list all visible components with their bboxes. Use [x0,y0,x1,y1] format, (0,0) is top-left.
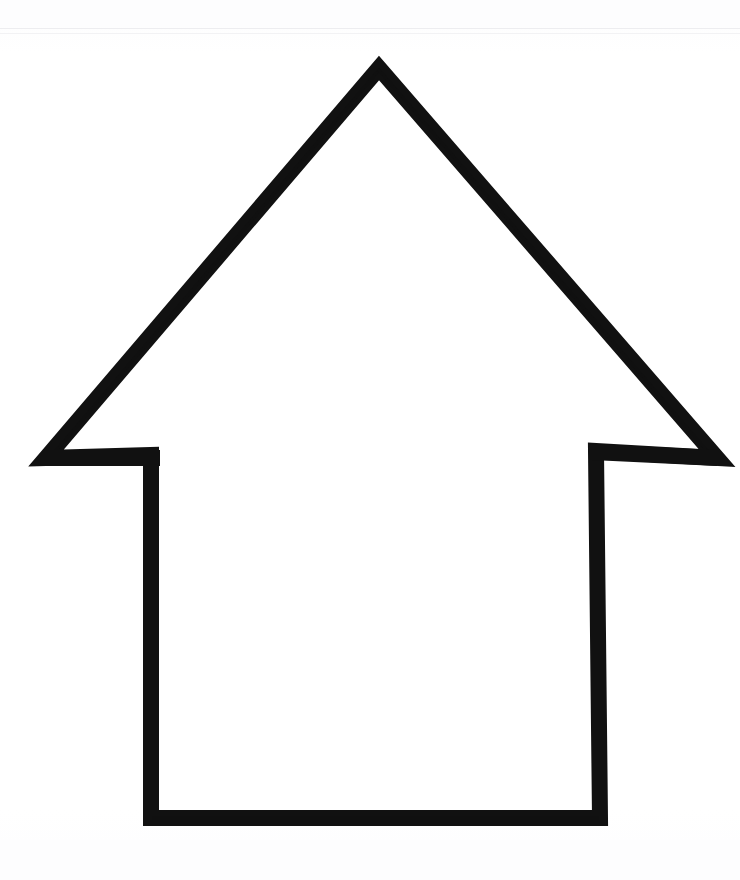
roof-right-rake-overink [379,70,713,458]
roof-left-rake-overink [50,70,379,458]
left-eave-tip [46,450,160,466]
house-outline-path [46,68,717,818]
house-outline-drawing: House Outline Drawing Black outline draw… [0,0,740,880]
drawing-canvas: House Outline Drawing Black outline draw… [0,0,740,880]
